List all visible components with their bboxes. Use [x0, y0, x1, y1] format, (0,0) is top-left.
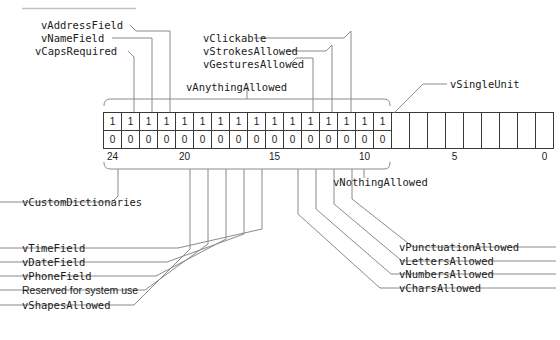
bit-cell-lower: 0: [320, 133, 338, 147]
bit-cell-upper: 1: [284, 115, 302, 129]
bit-cell-upper: 1: [266, 115, 284, 129]
label-vclickable: vClickable: [203, 32, 266, 44]
bit-cell-lower: 0: [104, 133, 122, 147]
bit-cell-lower: 0: [248, 133, 266, 147]
axis-tick-label: 5: [443, 151, 467, 162]
label-vcapsrequired: vCapsRequired: [35, 45, 117, 57]
bit-cell-lower: 0: [230, 133, 248, 147]
label-vphonefield: vPhoneField: [22, 270, 92, 282]
bit-cell-upper: 1: [230, 115, 248, 129]
label-vtimefield: vTimeField: [22, 242, 85, 254]
label-vanythingallowed: vAnythingAllowed: [186, 81, 287, 93]
bit-cell-lower: 0: [302, 133, 320, 147]
label-vaddressfield: vAddressField: [41, 19, 123, 31]
leader-vclickable: [254, 31, 351, 112]
axis-tick-label: 10: [353, 151, 377, 162]
bit-cell-lower: 0: [122, 133, 140, 147]
bit-cell-upper: 1: [176, 115, 194, 129]
bit-cell-lower: 0: [140, 133, 158, 147]
bit-cell-lower: 0: [194, 133, 212, 147]
bit-cell-lower: 0: [158, 133, 176, 147]
bit-cell-upper: 1: [122, 115, 140, 129]
label-vgesturesallowed: vGesturesAllowed: [203, 58, 304, 70]
bit-cell-lower: 0: [176, 133, 194, 147]
leader-vcapsrequired: [128, 51, 134, 112]
leader-vsingleunit: [394, 84, 447, 113]
bit-cell-upper: 1: [212, 115, 230, 129]
axis-tick-label: 20: [173, 151, 197, 162]
bottom-brace: [104, 162, 390, 169]
label-vnumbersallowed: vNumbersAllowed: [399, 268, 494, 280]
top-brace: [104, 99, 390, 106]
axis-tick-label: 15: [263, 151, 287, 162]
bit-cell-upper: 1: [302, 115, 320, 129]
label-vnothingallowed: vNothingAllowed: [333, 176, 428, 188]
label-vpunctuationallowed: vPunctuationAllowed: [399, 241, 519, 253]
axis-tick-label: 0: [533, 151, 557, 162]
label-vlettersallowed: vLettersAllowed: [399, 255, 494, 267]
label-reserved-for-system-use: Reserved for system use: [22, 284, 138, 296]
bitfield-diagram: vAddressField vNameField vCapsRequired v…: [0, 0, 560, 340]
bit-cell-lower: 0: [284, 133, 302, 147]
label-vstrokesallowed: vStrokesAllowed: [203, 45, 298, 57]
label-vcharsallowed: vCharsAllowed: [399, 282, 481, 294]
label-vshapesallowed: vShapesAllowed: [22, 299, 111, 311]
label-vsingleunit: vSingleUnit: [450, 78, 520, 90]
bit-cell-upper: 1: [140, 115, 158, 129]
bit-table-empty-dividers: [410, 113, 536, 149]
bit-cell-upper: 1: [356, 115, 374, 129]
leader-vnamefield: [112, 38, 152, 112]
bit-cell-upper: 1: [194, 115, 212, 129]
bit-cell-lower: 0: [338, 133, 356, 147]
label-vdatefield: vDateField: [22, 256, 85, 268]
axis-tick-label: 24: [101, 151, 125, 162]
bit-cell-lower: 0: [266, 133, 284, 147]
bit-cell-upper: 1: [104, 115, 122, 129]
bit-cell-upper: 1: [338, 115, 356, 129]
label-vnamefield: vNameField: [41, 32, 104, 44]
bit-cell-upper: 1: [248, 115, 266, 129]
bit-cell-upper: 1: [320, 115, 338, 129]
bit-cell-lower: 0: [374, 133, 392, 147]
bit-table-empty-block: [392, 113, 554, 149]
bit-cell-upper: 1: [158, 115, 176, 129]
bit-cell-upper: 1: [374, 115, 392, 129]
label-vcustomdictionaries: vCustomDictionaries: [22, 196, 142, 208]
bit-cell-lower: 0: [356, 133, 374, 147]
bit-cell-lower: 0: [212, 133, 230, 147]
